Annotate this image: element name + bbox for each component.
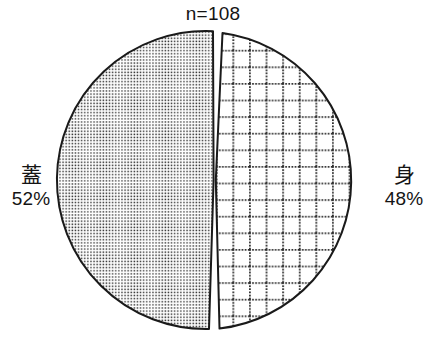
pie-slice-body-shape[interactable]	[216, 33, 351, 329]
slice-label-lid: 蓋 52%	[1, 164, 61, 211]
pie-chart-canvas	[0, 0, 428, 346]
slice-label-body: 身 48%	[374, 164, 428, 211]
pie-slice-lid-shape[interactable]	[57, 31, 214, 329]
slice-label-lid-name: 蓋	[1, 164, 61, 187]
slice-label-body-name: 身	[374, 164, 428, 187]
pie-slice-lid[interactable]	[57, 31, 214, 329]
sample-size-label: n=108	[153, 3, 273, 25]
slice-label-lid-percent: 52%	[1, 187, 61, 211]
pie-slice-body[interactable]	[216, 33, 351, 329]
slice-label-body-percent: 48%	[374, 187, 428, 211]
